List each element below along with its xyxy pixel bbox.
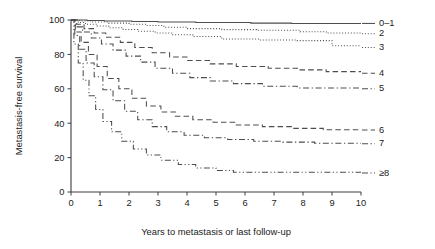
survival-curve-2 <box>71 20 361 33</box>
legend-label-01: 0–1 <box>379 18 395 28</box>
x-tick-label: 4 <box>184 198 189 208</box>
x-tick-label: 0 <box>68 198 73 208</box>
legend-label-3: 3 <box>379 42 384 52</box>
survival-curve-chart: 020406080100012345678910Years to metasta… <box>0 0 435 249</box>
x-tick-label: 3 <box>155 198 160 208</box>
y-tick-label: 60 <box>54 84 64 94</box>
survival-curve-8 <box>71 20 361 172</box>
survival-curve-6 <box>71 20 361 130</box>
x-axis-title: Years to metastasis or last follow-up <box>141 226 291 237</box>
y-tick-label: 20 <box>54 153 64 163</box>
x-tick-label: 6 <box>242 198 247 208</box>
survival-curve-5 <box>71 20 361 88</box>
survival-curve-4 <box>71 20 361 72</box>
legend-label-6: 6 <box>379 125 384 135</box>
survival-curve-7 <box>71 20 361 143</box>
y-tick-label: 40 <box>54 119 64 129</box>
y-axis-title: Metastasis-free survival <box>13 57 24 155</box>
x-tick-label: 10 <box>356 198 366 208</box>
x-tick-label: 5 <box>213 198 218 208</box>
legend-label-2: 2 <box>379 28 384 38</box>
x-tick-label: 2 <box>126 198 131 208</box>
x-tick-label: 7 <box>271 198 276 208</box>
x-tick-label: 1 <box>97 198 102 208</box>
legend-label-4: 4 <box>379 68 384 78</box>
x-tick-label: 9 <box>329 198 334 208</box>
legend-label-7: 7 <box>379 138 384 148</box>
y-tick-label: 0 <box>59 187 64 197</box>
metastasis-free-survival-figure: 020406080100012345678910Years to metasta… <box>0 0 435 249</box>
legend-label-5: 5 <box>379 83 384 93</box>
y-tick-label: 80 <box>54 50 64 60</box>
x-tick-label: 8 <box>300 198 305 208</box>
y-tick-label: 100 <box>49 15 65 25</box>
legend-label-8: ≥8 <box>379 168 389 178</box>
